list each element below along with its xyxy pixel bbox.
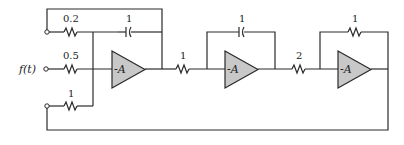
bottom-input-branch: 1 [45,88,93,110]
r-f-label: 0.5 [63,50,79,61]
amplifier-3: -A [338,51,371,88]
resistor-2-amp2-amp3 [292,65,305,73]
input-terminal-bottom [45,104,49,108]
r12-label: 1 [180,50,186,61]
r-top-label: 0.2 [63,13,79,24]
resistor-0.2 [64,28,77,36]
capacitor-plate-curved [130,27,132,37]
amp3-label: -A [340,63,352,76]
resistor-1-amp1-amp2 [176,65,189,73]
input-terminal-f [44,67,48,71]
amp2-label: -A [227,63,239,76]
c1-label: 1 [126,13,132,24]
c2-label: 1 [239,13,245,24]
amp1-label: -A [114,63,126,76]
resistor-1-bottom [64,102,77,110]
f-input-label: f(t) [18,63,36,76]
f-input-branch: f(t) 0.5 [18,50,112,76]
circuit-diagram: 0.2 1 f(t) 0.5 -A 1 1 -A 2 [0,0,404,145]
top-input-branch: 0.2 1 [45,13,162,37]
input-terminal-top [45,30,49,34]
r23-label: 2 [296,50,302,61]
bottom-feedback-wire [47,69,388,130]
r-bottom-label: 1 [68,88,74,99]
resistor-0.5 [64,65,77,73]
r3f-label: 1 [352,13,358,24]
amplifier-2: -A [225,51,258,88]
amplifier-1: -A [112,51,145,88]
